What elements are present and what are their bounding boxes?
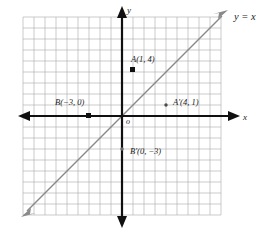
y-axis-label: y [127,6,131,15]
x-axis-arrow-positive [228,111,240,121]
point-marker-B [86,113,91,118]
y-axis-arrow-negative [117,216,127,228]
point-label-A-prime: A′(4, 1) [173,98,198,107]
y-axis-arrow-positive [117,6,127,18]
point-label-A: A(1, 4) [131,55,155,64]
line-y-equals-x [21,10,228,217]
origin-label: o [126,118,130,126]
coordinate-plane-svg [0,0,270,232]
x-axis-label: x [243,113,247,122]
point-marker-A-prime [164,103,167,106]
point-label-B: B(−3, 0) [55,98,84,107]
point-label-B-prime: B′(0, −3) [130,147,161,156]
line-equation-label: y = x [234,12,256,23]
x-axis-arrow-negative [18,111,30,121]
point-marker-B-prime [120,147,123,150]
point-marker-A [130,67,135,72]
coordinate-plane-figure: A(1, 4) B(−3, 0) A′(4, 1) B′(0, −3) y x … [0,0,270,232]
